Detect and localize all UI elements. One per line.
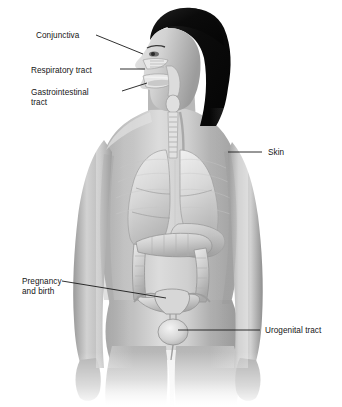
label-conjunctiva: Conjunctiva: [36, 31, 79, 41]
bottom-fade: [0, 352, 342, 407]
torso-edge-fade: [96, 108, 248, 368]
label-skin: Skin: [268, 148, 284, 158]
label-urogenital-tract: Urogenital tract: [265, 326, 321, 336]
label-respiratory-tract: Respiratory tract: [31, 66, 92, 76]
label-pregnancy-and-birth: Pregnancy and birth: [22, 277, 62, 297]
pupil: [151, 52, 155, 56]
anatomical-figure: [0, 0, 342, 407]
label-gastrointestinal-tract: Gastrointestinal tract: [31, 88, 89, 108]
